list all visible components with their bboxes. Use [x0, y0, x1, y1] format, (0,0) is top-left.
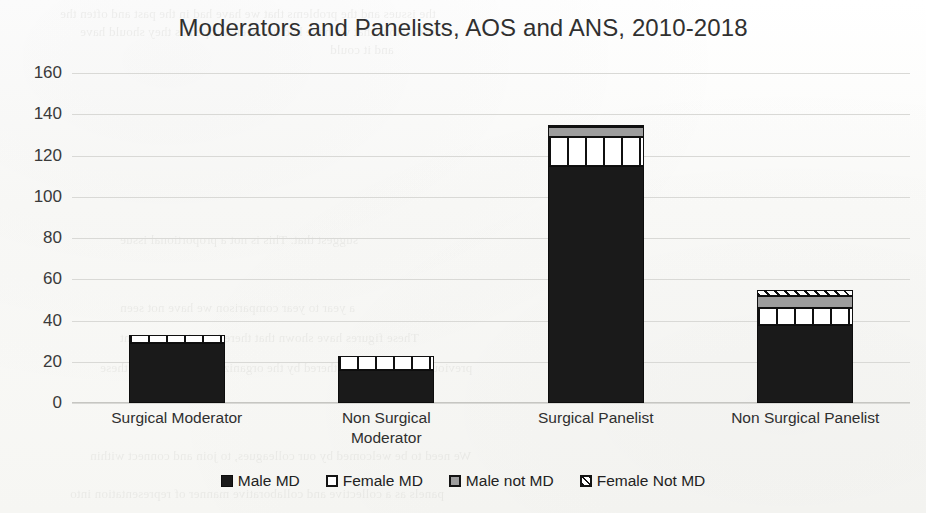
- x-axis-label: Non Surgical Panelist: [710, 408, 900, 428]
- x-axis-label-line: Surgical Panelist: [538, 409, 653, 426]
- bar-segment-male-md[interactable]: [129, 343, 225, 403]
- x-axis-label: Non SurgicalModerator: [291, 408, 481, 448]
- y-axis-tick-label: 80: [10, 228, 62, 248]
- legend-label: Female Not MD: [597, 472, 706, 490]
- x-axis-labels: Surgical ModeratorNon SurgicalModeratorS…: [72, 408, 910, 458]
- x-axis-label-line: Surgical Moderator: [111, 409, 242, 426]
- chart-legend: Male MDFemale MDMale not MDFemale Not MD: [0, 472, 926, 490]
- bar-segment-male-md[interactable]: [338, 370, 434, 403]
- legend-label: Male MD: [238, 472, 300, 490]
- legend-item-male-md[interactable]: Male MD: [221, 472, 300, 490]
- y-axis-tick-label: 120: [10, 146, 62, 166]
- x-axis-label-line: Moderator: [351, 429, 422, 446]
- bar-segment-male-md[interactable]: [757, 325, 853, 403]
- bar-segment-male-md[interactable]: [548, 166, 644, 403]
- bar-non-surgical-moderator[interactable]: [338, 356, 434, 403]
- y-axis-tick-label: 100: [10, 187, 62, 207]
- x-axis-label-line: Non Surgical: [342, 409, 431, 426]
- x-axis-label-line: Non Surgical Panelist: [731, 409, 879, 426]
- legend-label: Male not MD: [466, 472, 554, 490]
- y-axis-tick-label: 160: [10, 63, 62, 83]
- y-axis-tick-label: 20: [10, 352, 62, 372]
- bar-segment-female-md[interactable]: [338, 356, 434, 370]
- legend-item-female-md[interactable]: Female MD: [326, 472, 423, 490]
- plot-area: 160140120100806040200: [72, 73, 910, 403]
- bar-segment-female-md[interactable]: [757, 308, 853, 325]
- legend-item-female-not-md[interactable]: Female Not MD: [580, 472, 706, 490]
- bar-segment-male-not-md[interactable]: [757, 296, 853, 308]
- x-axis-label: Surgical Panelist: [501, 408, 691, 428]
- bar-segment-male-not-md[interactable]: [548, 127, 644, 137]
- legend-label: Female MD: [343, 472, 423, 490]
- y-axis-tick-label: 140: [10, 104, 62, 124]
- legend-swatch-female-md-icon: [326, 475, 338, 487]
- legend-item-male-not-md[interactable]: Male not MD: [449, 472, 554, 490]
- bar-segment-female-md[interactable]: [548, 137, 644, 166]
- chart-container: Moderators and Panelists, AOS and ANS, 2…: [0, 0, 926, 513]
- y-axis-tick-label: 40: [10, 311, 62, 331]
- bar-surgical-panelist[interactable]: [548, 125, 644, 403]
- bar-surgical-moderator[interactable]: [129, 335, 225, 403]
- legend-swatch-male-md-icon: [221, 475, 233, 487]
- bar-segment-female-md[interactable]: [129, 335, 225, 343]
- gridline: [72, 403, 910, 404]
- legend-swatch-male-not-md-icon: [449, 475, 461, 487]
- chart-title: Moderators and Panelists, AOS and ANS, 2…: [0, 14, 926, 42]
- y-axis-tick-label: 0: [10, 393, 62, 413]
- bar-non-surgical-panelist[interactable]: [757, 290, 853, 403]
- legend-swatch-female-not-md-icon: [580, 475, 592, 487]
- bar-series-group: [72, 73, 910, 403]
- y-axis-tick-label: 60: [10, 269, 62, 289]
- x-axis-label: Surgical Moderator: [82, 408, 272, 428]
